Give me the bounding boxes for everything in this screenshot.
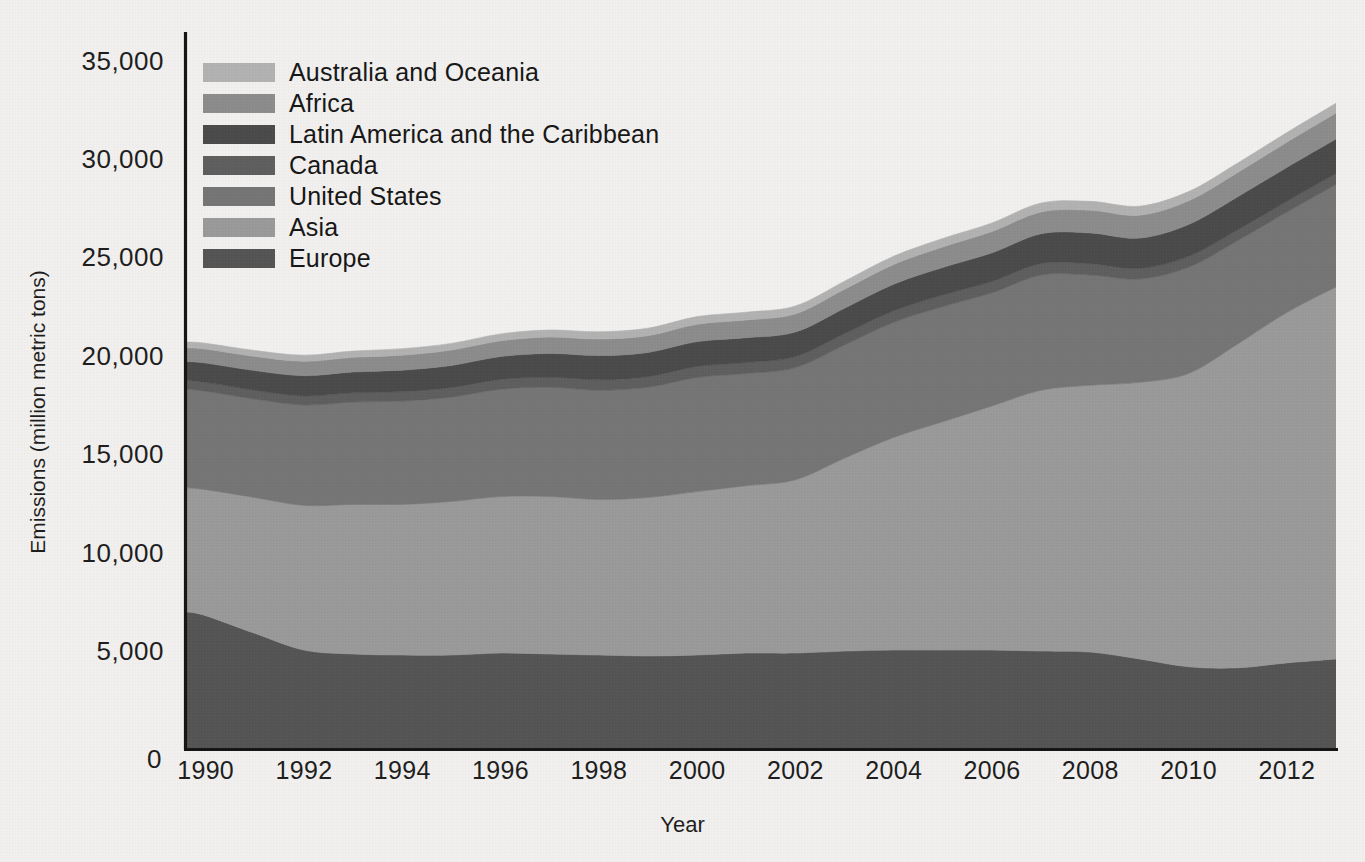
legend-item-label: Africa	[289, 89, 354, 118]
legend-swatch-icon	[203, 125, 275, 144]
legend-item-label: Asia	[289, 213, 338, 242]
x-tick-label: 2008	[1062, 756, 1119, 785]
legend-swatch-icon	[203, 249, 275, 268]
x-tick-label: 2010	[1160, 756, 1217, 785]
y-tick-label: 25,000	[81, 242, 164, 273]
legend-swatch-icon	[203, 63, 275, 82]
legend-swatch-icon	[203, 156, 275, 175]
y-tick-label: 5,000	[96, 636, 164, 667]
chart-legend: Australia and OceaniaAfricaLatin America…	[203, 57, 659, 274]
x-tick-label: 1992	[276, 756, 333, 785]
legend-item[interactable]: Canada	[203, 150, 659, 181]
x-tick-label: 2004	[865, 756, 922, 785]
legend-item[interactable]: Africa	[203, 88, 659, 119]
legend-item-label: Australia and Oceania	[289, 58, 539, 87]
y-tick-label: 20,000	[81, 340, 164, 371]
x-axis-title: Year	[0, 812, 1365, 838]
x-tick-label: 1998	[570, 756, 627, 785]
legend-item[interactable]: Latin America and the Caribbean	[203, 119, 659, 150]
y-tick-label: 15,000	[81, 439, 164, 470]
x-tick-label: 1994	[374, 756, 431, 785]
y-tick-label: 10,000	[81, 537, 164, 568]
legend-item-label: United States	[289, 182, 442, 211]
x-tick-label: 2012	[1258, 756, 1315, 785]
legend-swatch-icon	[203, 218, 275, 237]
y-tick-label: 0	[147, 743, 162, 774]
x-tick-label: 2000	[669, 756, 726, 785]
x-tick-label: 2002	[767, 756, 824, 785]
legend-swatch-icon	[203, 94, 275, 113]
chart-container: 35,00030,00025,00020,00015,00010,0005,00…	[0, 0, 1365, 862]
x-tick-label: 1996	[472, 756, 529, 785]
legend-item[interactable]: Australia and Oceania	[203, 57, 659, 88]
x-tick-label: 1990	[177, 756, 234, 785]
legend-swatch-icon	[203, 187, 275, 206]
legend-item[interactable]: United States	[203, 181, 659, 212]
legend-item-label: Europe	[289, 244, 371, 273]
y-tick-label: 35,000	[81, 45, 164, 76]
legend-item-label: Latin America and the Caribbean	[289, 120, 659, 149]
legend-item[interactable]: Asia	[203, 212, 659, 243]
y-tick-label: 30,000	[81, 143, 164, 174]
legend-item[interactable]: Europe	[203, 243, 659, 274]
y-axis-title: Emissions (million metric tons)	[26, 232, 50, 592]
x-tick-label: 2006	[964, 756, 1021, 785]
legend-item-label: Canada	[289, 151, 378, 180]
